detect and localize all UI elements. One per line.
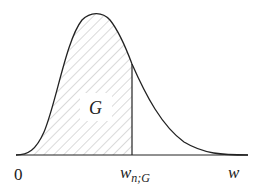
region-label-g: G (89, 98, 102, 118)
density-diagram: G 0 wn;G w (0, 0, 265, 194)
quantile-label: wn;G (120, 163, 150, 185)
variable-label-w: w (228, 163, 240, 182)
quantile-label-sub: n;G (131, 171, 150, 185)
origin-label: 0 (14, 165, 23, 184)
quantile-label-main: w (120, 163, 132, 182)
